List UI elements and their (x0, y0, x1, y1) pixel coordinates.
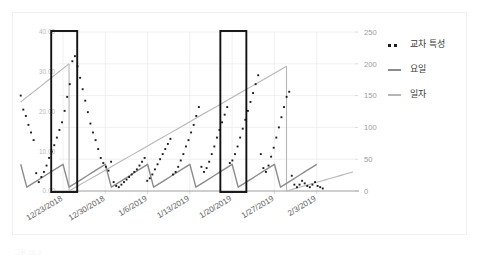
series-point-cross-feature (105, 166, 107, 168)
series-point-cross-feature (182, 153, 184, 155)
series-point-cross-feature (56, 137, 58, 139)
series-point-cross-feature (293, 184, 295, 186)
series-point-cross-feature (133, 171, 135, 173)
light-dash-key-icon (387, 90, 404, 100)
series-point-cross-feature (291, 175, 293, 177)
series-point-cross-feature (28, 124, 30, 126)
series-point-cross-feature (275, 137, 277, 139)
right-axis-tick-label: 200 (364, 60, 377, 69)
series-point-cross-feature (206, 167, 208, 169)
series-point-cross-feature (262, 167, 264, 169)
series-point-cross-feature (61, 121, 63, 123)
series-point-cross-feature (224, 114, 226, 116)
series-point-cross-feature (139, 165, 141, 167)
series-point-cross-feature (66, 96, 68, 98)
series-point-cross-feature (242, 128, 244, 130)
series-point-cross-feature (286, 96, 288, 98)
legend-item-weekday[interactable]: 요일 (387, 64, 491, 75)
series-point-cross-feature (69, 83, 71, 85)
series-point-cross-feature (89, 123, 91, 125)
series-point-cross-feature (226, 106, 228, 108)
series-point-cross-feature (172, 174, 174, 176)
series-point-cross-feature (149, 177, 151, 179)
series-point-cross-feature (314, 181, 316, 183)
series-point-cross-feature (221, 121, 223, 123)
series-point-cross-feature (229, 162, 231, 164)
series-point-cross-feature (257, 74, 259, 76)
series-point-cross-feature (239, 137, 241, 139)
series-point-cross-feature (151, 174, 153, 176)
legend-item-cross-feature[interactable]: 교차 특성 (387, 39, 491, 50)
series-point-cross-feature (162, 153, 164, 155)
series-point-cross-feature (278, 126, 280, 128)
right-axis-tick-label: 100 (364, 123, 377, 132)
series-point-cross-feature (58, 129, 60, 131)
series-point-cross-feature (95, 139, 97, 141)
legend-label-weekday: 요일 (410, 64, 426, 75)
series-point-cross-feature (120, 184, 122, 186)
right-axis-tick-label: 50 (364, 155, 372, 164)
series-point-cross-feature (146, 180, 148, 182)
chart-card: 12/23/201812/30/20181/6/20191/13/20191/2… (12, 12, 467, 235)
series-point-cross-feature (283, 106, 285, 108)
series-point-cross-feature (193, 124, 195, 126)
series-point-cross-feature (118, 186, 120, 188)
series-point-cross-feature (252, 92, 254, 94)
series-point-cross-feature (304, 182, 306, 184)
series-point-cross-feature (20, 95, 22, 97)
series-point-cross-feature (126, 179, 128, 181)
series-point-cross-feature (102, 162, 104, 164)
right-axis-tick-label: 150 (364, 91, 377, 100)
series-point-cross-feature (317, 185, 319, 187)
series-point-cross-feature (250, 101, 252, 103)
series-point-cross-feature (231, 160, 233, 162)
series-point-cross-feature (108, 170, 110, 172)
series-point-cross-feature (40, 176, 42, 178)
left-axis-tick-label: 30.00 (39, 68, 55, 75)
series-point-cross-feature (84, 100, 86, 102)
series-point-cross-feature (237, 146, 239, 148)
legend-label-date: 일자 (410, 89, 426, 100)
series-point-cross-feature (169, 138, 171, 140)
series-point-cross-feature (71, 60, 73, 62)
series-point-cross-feature (306, 185, 308, 187)
series-point-cross-feature (97, 148, 99, 150)
left-axis-tick-label: 10.00 (39, 148, 55, 155)
legend-label-cross-feature: 교차 특성 (410, 39, 445, 50)
series-point-cross-feature (157, 163, 159, 165)
series-point-cross-feature (141, 161, 143, 163)
series-point-cross-feature (260, 153, 262, 155)
x-axis-tick-label: 12/30/2018 (67, 194, 107, 223)
series-point-cross-feature (200, 166, 202, 168)
series-point-cross-feature (131, 174, 133, 176)
series-point-cross-feature (164, 148, 166, 150)
series-point-cross-feature (234, 153, 236, 155)
series-point-cross-feature (53, 144, 55, 146)
series-point-cross-feature (208, 161, 210, 163)
series-point-cross-feature (123, 181, 125, 183)
series-point-cross-feature (190, 132, 192, 134)
series-point-cross-feature (211, 153, 213, 155)
series-point-cross-feature (30, 132, 32, 134)
series-point-cross-feature (265, 171, 267, 173)
series-point-cross-feature (144, 157, 146, 159)
series-point-cross-feature (309, 186, 311, 188)
series-point-cross-feature (22, 109, 24, 111)
series-point-cross-feature (268, 165, 270, 167)
series-point-cross-feature (87, 111, 89, 113)
series-line-weekday (21, 164, 317, 187)
legend-item-date[interactable]: 일자 (387, 89, 491, 100)
series-point-cross-feature (322, 188, 324, 190)
series-point-cross-feature (203, 171, 205, 173)
series-point-cross-feature (216, 137, 218, 139)
x-axis-tick-label: 1/27/2019 (240, 194, 276, 221)
series-point-cross-feature (136, 168, 138, 170)
series-point-cross-feature (301, 180, 303, 182)
series-point-cross-feature (296, 186, 298, 188)
x-axis-tick-label: 12/23/2018 (25, 194, 65, 223)
series-point-cross-feature (177, 166, 179, 168)
series-point-cross-feature (48, 157, 50, 159)
page-caption: 그림 10-1 (14, 247, 314, 255)
dotted-key-icon (387, 40, 404, 50)
series-point-cross-feature (273, 147, 275, 149)
